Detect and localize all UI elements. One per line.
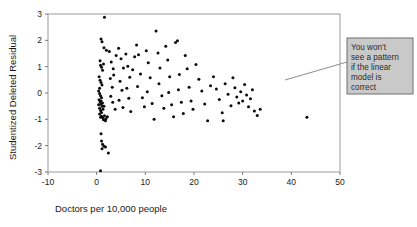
scatter-plot-figure: -1001020304050-3-2-10123Doctors per 10,0… xyxy=(0,0,417,227)
data-point xyxy=(164,45,167,48)
data-point xyxy=(131,68,134,71)
data-point xyxy=(247,105,250,108)
data-point xyxy=(245,94,248,97)
data-point xyxy=(182,112,185,115)
data-point xyxy=(111,101,114,104)
axis-lines xyxy=(48,14,340,172)
data-point xyxy=(212,75,215,78)
data-point xyxy=(259,108,262,111)
data-point xyxy=(155,30,158,33)
data-point xyxy=(112,74,115,77)
callout-text-line: if the linear xyxy=(351,63,391,72)
data-point xyxy=(239,90,242,93)
data-point xyxy=(122,66,125,69)
data-point xyxy=(251,88,254,91)
data-point xyxy=(229,104,232,107)
data-point xyxy=(135,44,138,47)
y-tick-label: 0 xyxy=(37,88,42,98)
data-point xyxy=(167,91,170,94)
data-point xyxy=(102,105,105,108)
data-point xyxy=(101,40,104,43)
data-point xyxy=(127,97,130,100)
data-point xyxy=(102,63,105,66)
data-point xyxy=(237,102,240,105)
data-point xyxy=(305,116,308,119)
callout-text-line: You won't xyxy=(351,43,387,52)
data-point xyxy=(215,88,218,91)
x-tick-label: 0 xyxy=(94,177,99,187)
data-point xyxy=(253,109,256,112)
data-point xyxy=(117,47,120,50)
data-point xyxy=(170,103,173,106)
data-point xyxy=(190,99,193,102)
data-point xyxy=(128,76,131,79)
x-tick-label: 50 xyxy=(335,177,345,187)
data-point xyxy=(124,53,127,56)
data-point xyxy=(97,103,100,106)
data-points-group xyxy=(97,16,308,173)
data-point xyxy=(120,57,123,60)
data-point xyxy=(192,108,195,111)
data-point xyxy=(100,66,103,69)
data-point xyxy=(100,132,103,135)
data-point xyxy=(102,46,105,49)
data-point xyxy=(110,60,113,63)
data-point xyxy=(249,97,252,100)
callout-text-line: correct xyxy=(351,83,377,92)
data-point xyxy=(158,66,161,69)
data-point xyxy=(177,88,180,91)
data-point xyxy=(101,108,104,111)
x-tick-label: 10 xyxy=(141,177,151,187)
data-point xyxy=(186,67,189,70)
data-point xyxy=(136,85,139,88)
data-point xyxy=(108,50,111,53)
data-point xyxy=(172,115,175,118)
data-point xyxy=(129,110,132,113)
callout-text-line: model is xyxy=(351,73,382,82)
data-point xyxy=(101,69,104,72)
x-tick-label: -10 xyxy=(42,177,55,187)
data-point xyxy=(224,82,227,85)
data-point xyxy=(149,76,152,79)
data-point xyxy=(194,63,197,66)
data-point xyxy=(105,49,108,52)
data-point xyxy=(114,108,117,111)
data-point xyxy=(243,83,246,86)
data-point xyxy=(119,80,122,83)
data-point xyxy=(121,106,124,109)
y-tick-label: 3 xyxy=(37,9,42,19)
data-point xyxy=(100,139,103,142)
data-point xyxy=(233,86,236,89)
x-tick-label: 40 xyxy=(287,177,297,187)
data-point xyxy=(156,51,159,54)
data-point xyxy=(176,39,179,42)
data-point xyxy=(178,73,181,76)
data-point xyxy=(203,103,206,106)
data-point xyxy=(133,55,136,58)
data-point xyxy=(100,38,103,41)
data-point xyxy=(209,84,212,87)
y-tick-label: -1 xyxy=(34,114,42,124)
data-point xyxy=(168,75,171,78)
data-point xyxy=(126,65,129,68)
data-point xyxy=(100,81,103,84)
data-point xyxy=(153,118,156,121)
data-point xyxy=(157,82,160,85)
data-point xyxy=(151,102,154,105)
data-point xyxy=(98,75,101,78)
data-point xyxy=(227,93,230,96)
data-point xyxy=(200,89,203,92)
data-point xyxy=(115,54,118,57)
data-point xyxy=(112,67,115,70)
data-point xyxy=(99,59,102,62)
data-point xyxy=(97,89,100,92)
data-point xyxy=(146,90,149,93)
data-point xyxy=(101,147,104,150)
data-point xyxy=(147,61,150,64)
y-tick-label: 2 xyxy=(37,35,42,45)
data-point xyxy=(235,95,238,98)
data-point xyxy=(109,77,112,80)
data-point xyxy=(184,54,187,57)
residual-scatter-chart: -1001020304050-3-2-10123Doctors per 10,0… xyxy=(0,0,417,227)
y-axis-title: Studentized Deleted Residual xyxy=(7,35,18,160)
